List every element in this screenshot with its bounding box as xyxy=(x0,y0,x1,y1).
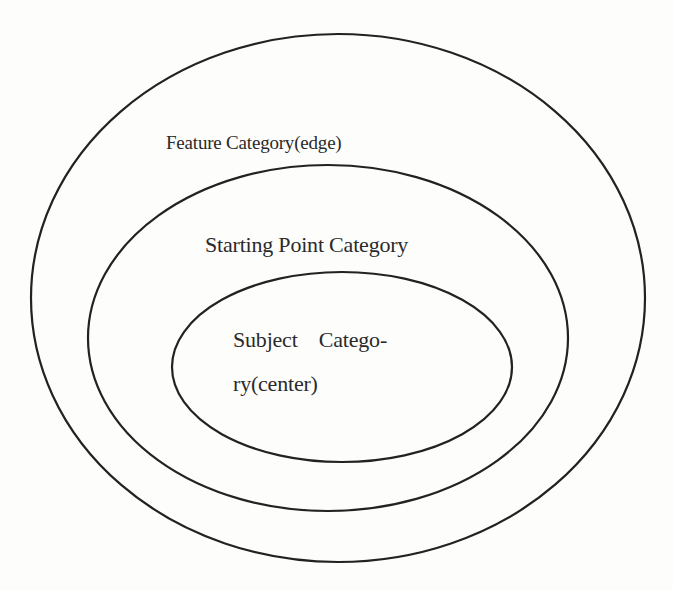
feature-category-label: Feature Category(edge) xyxy=(166,133,342,152)
starting-point-category-label: Starting Point Category xyxy=(205,234,408,256)
nested-ellipses-diagram xyxy=(0,0,673,590)
subject-category-label-line-1: Subject Catego- xyxy=(233,318,387,362)
diagram-canvas: Feature Category(edge) Starting Point Ca… xyxy=(0,0,673,590)
subject-category-label-line-2: ry(center) xyxy=(233,362,387,406)
outer-ellipse xyxy=(31,34,645,562)
subject-category-label: Subject Catego- ry(center) xyxy=(233,318,387,406)
